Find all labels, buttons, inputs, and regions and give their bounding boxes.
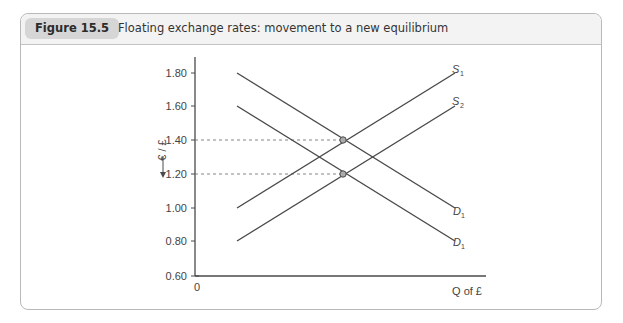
- svg-text:S: S: [452, 63, 460, 75]
- equilibrium-point-1: [340, 137, 346, 143]
- svg-text:S: S: [452, 95, 460, 107]
- y-axis-label: € / £: [156, 139, 168, 160]
- y-tick-label: 1.00: [166, 202, 187, 214]
- x-axis-label: Q of £: [452, 285, 482, 297]
- origin-label: 0: [194, 281, 200, 293]
- svg-text:1: 1: [461, 243, 465, 250]
- y-tick-label: 1.60: [166, 100, 187, 112]
- y-tick-label: 1.20: [166, 168, 187, 180]
- label-s2: S 2: [452, 95, 464, 109]
- svg-text:1: 1: [461, 212, 465, 219]
- y-tick-label: 1.40: [166, 134, 187, 146]
- equilibrium-point-2: [340, 171, 346, 177]
- label-d-upper: D 1: [453, 205, 465, 219]
- y-tick-label: 0.80: [166, 235, 187, 247]
- y-tick-label: 1.80: [166, 67, 187, 79]
- label-d-lower: D 1: [453, 236, 465, 250]
- chart-area: 1.80 1.60 1.40 1.20 1.00 0.80 0.60 0 € /…: [0, 0, 623, 323]
- svg-text:D: D: [453, 205, 461, 217]
- label-s1: S 1: [452, 63, 464, 77]
- svg-text:D: D: [453, 236, 461, 248]
- svg-text:2: 2: [460, 102, 464, 109]
- svg-text:1: 1: [460, 70, 464, 77]
- y-tick-label: 0.60: [166, 270, 187, 282]
